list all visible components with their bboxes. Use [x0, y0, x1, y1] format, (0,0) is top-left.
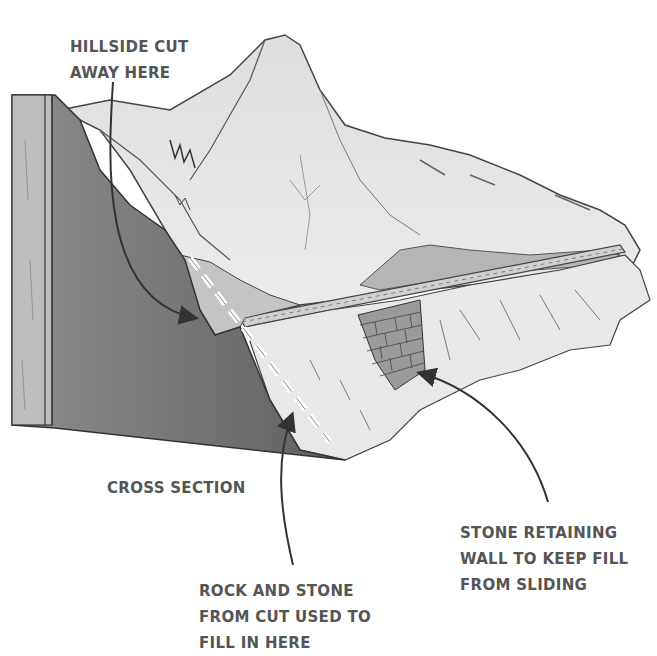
hillside-cut-label: HILLSIDE CUT AWAY HERE: [70, 34, 189, 86]
hillside-cut-label-line-2: AWAY HERE: [70, 60, 189, 86]
retaining-wall-label-line-1: STONE RETAINING: [460, 520, 628, 546]
rock-fill-label-line-3: FILL IN HERE: [199, 630, 371, 656]
rock-fill-label-line-1: ROCK AND STONE: [199, 578, 371, 604]
rock-fill-label: ROCK AND STONE FROM CUT USED TO FILL IN …: [199, 578, 371, 656]
retaining-wall-label-line-2: WALL TO KEEP FILL: [460, 546, 628, 572]
hillside-cut-label-line-1: HILLSIDE CUT: [70, 34, 189, 60]
cross-section-label-line-1: CROSS SECTION: [107, 475, 246, 501]
rock-fill-label-line-2: FROM CUT USED TO: [199, 604, 371, 630]
cross-section-label: CROSS SECTION: [107, 475, 246, 501]
retaining-wall-label-line-3: FROM SLIDING: [460, 572, 628, 598]
retaining-wall-label: STONE RETAINING WALL TO KEEP FILL FROM S…: [460, 520, 628, 598]
